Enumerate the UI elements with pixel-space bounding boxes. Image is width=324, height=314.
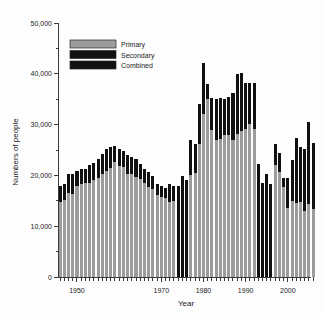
bar-group: [164, 188, 167, 277]
bar-group: [194, 144, 197, 277]
bar-segment: [202, 114, 205, 277]
bar-segment: [269, 184, 272, 277]
bar-segment: [156, 184, 159, 195]
bar-group: [143, 169, 146, 277]
bar-segment: [109, 168, 112, 277]
bar-group: [240, 73, 243, 277]
bar-segment: [130, 157, 133, 175]
bar-segment: [122, 167, 125, 277]
bar-segment: [67, 193, 70, 277]
bar-group: [231, 93, 234, 277]
bar-segment: [219, 98, 222, 139]
bar-segment: [307, 204, 310, 277]
bar-segment: [59, 186, 62, 202]
bar-group: [189, 140, 192, 277]
bar-segment: [206, 99, 209, 277]
bar-segment: [172, 201, 175, 277]
bar-segment: [198, 104, 201, 145]
bar-segment: [282, 187, 285, 277]
legend-label: Secondary: [121, 52, 155, 60]
bar-segment: [156, 195, 159, 277]
bar-group: [156, 184, 159, 277]
y-tick-label: 40,000: [31, 70, 53, 77]
bar-segment: [303, 211, 306, 277]
bar-segment: [274, 144, 277, 165]
bar-group: [126, 155, 129, 277]
bar-group: [59, 186, 62, 277]
legend-swatch: [70, 61, 116, 69]
x-tick-label: 1970: [154, 287, 170, 294]
bar-segment: [227, 135, 230, 277]
bar-group: [92, 163, 95, 277]
bar-segment: [253, 83, 256, 129]
y-tick-label: 10,000: [31, 223, 53, 230]
bar-group: [177, 186, 180, 277]
bar-segment: [118, 166, 121, 277]
bar-segment: [231, 93, 234, 140]
bar-segment: [97, 178, 100, 277]
bar-group: [274, 144, 277, 277]
bar-segment: [278, 153, 281, 172]
bar-segment: [105, 171, 108, 277]
chart-legend: PrimarySecondaryCombined: [70, 40, 155, 69]
bar-group: [147, 172, 150, 277]
bar-segment: [75, 171, 78, 186]
bar-group: [265, 174, 268, 277]
bar-segment: [160, 197, 163, 277]
bar-segment: [282, 178, 285, 186]
bar-group: [303, 149, 306, 277]
bar-group: [210, 98, 213, 277]
bar-segment: [185, 180, 188, 277]
bar-segment: [63, 200, 66, 277]
bar-segment: [101, 154, 104, 174]
bar-segment: [143, 169, 146, 183]
bar-group: [130, 157, 133, 277]
bar-group: [278, 153, 281, 277]
bar-segment: [59, 202, 62, 277]
bar-group: [261, 183, 264, 277]
bar-segment: [109, 147, 112, 168]
bar-segment: [126, 174, 129, 277]
bar-segment: [126, 155, 129, 174]
bar-group: [198, 104, 201, 277]
bar-segment: [257, 164, 260, 277]
bar-segment: [151, 189, 154, 277]
bar-segment: [244, 83, 247, 129]
bar-segment: [295, 203, 298, 277]
bar-segment: [113, 162, 116, 277]
y-tick-label: 0: [48, 274, 52, 281]
bar-group: [168, 184, 171, 277]
bar-segment: [248, 83, 251, 124]
bar-segment: [160, 186, 163, 198]
bar-group: [75, 171, 78, 277]
bar-segment: [63, 184, 66, 201]
bar-segment: [253, 129, 256, 277]
bar-segment: [202, 63, 205, 114]
bar-segment: [164, 188, 167, 198]
bar-group: [295, 138, 298, 277]
bar-segment: [231, 140, 234, 277]
bar-group: [223, 99, 226, 277]
x-tick-label: 1990: [238, 287, 254, 294]
bar-segment: [274, 165, 277, 277]
bar-segment: [244, 129, 247, 277]
bar-group: [307, 122, 310, 277]
bar-segment: [189, 175, 192, 277]
bar-group: [227, 97, 230, 277]
bar-group: [219, 98, 222, 277]
bar-group: [160, 186, 163, 277]
bar-group: [97, 159, 100, 277]
bar-group: [118, 149, 121, 277]
bar-segment: [303, 149, 306, 211]
bar-group: [134, 159, 137, 277]
bar-segment: [71, 174, 74, 194]
bar-group: [84, 169, 87, 277]
legend-swatch: [70, 51, 116, 59]
bar-segment: [147, 187, 150, 277]
bar-segment: [227, 97, 230, 135]
bar-segment: [291, 160, 294, 202]
bar-group: [88, 165, 91, 277]
bar-segment: [80, 184, 83, 277]
bar-group: [312, 143, 315, 277]
bar-group: [202, 63, 205, 277]
